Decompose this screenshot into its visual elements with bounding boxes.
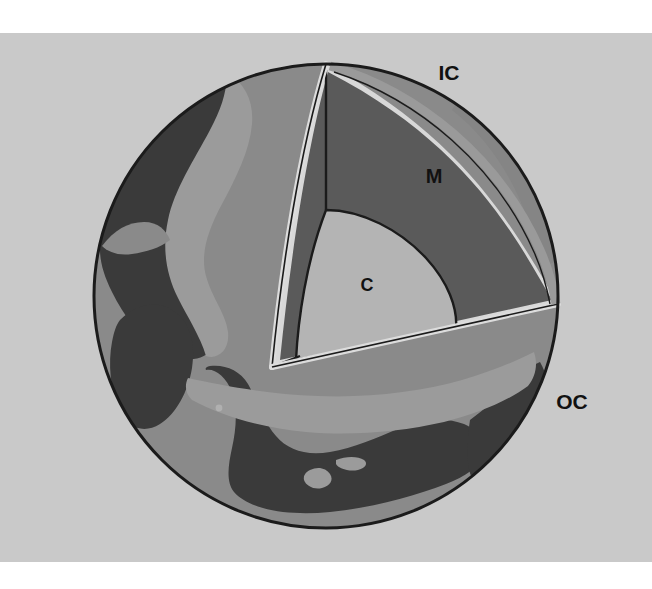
label-oc: OC <box>556 390 588 413</box>
figure-root: IC M C OC <box>0 0 652 589</box>
label-c: C <box>361 275 374 295</box>
earth-cutaway-diagram: IC M C OC <box>0 0 652 589</box>
label-ic: IC <box>439 61 460 84</box>
label-m: M <box>426 165 443 187</box>
island-dot <box>216 405 223 412</box>
